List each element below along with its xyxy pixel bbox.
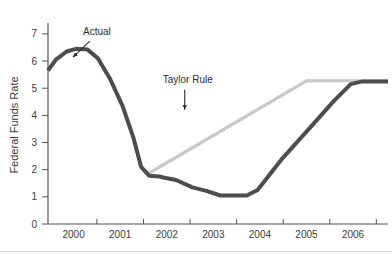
series-group: [48, 49, 388, 196]
y-tick-label: 4: [31, 110, 37, 121]
annotation-arrow-head: [183, 105, 187, 110]
y-tick-label: 3: [31, 137, 37, 148]
bottom-divider: [0, 251, 392, 252]
annotation-label-actual: Actual: [83, 26, 111, 37]
y-tick-label: 6: [31, 56, 37, 67]
y-tick-label: 2: [31, 164, 37, 175]
line-chart: Federal Funds Rate 01234567 200020012002…: [0, 0, 392, 254]
annotation-label-taylor-rule: Taylor Rule: [163, 74, 213, 85]
x-tick-group: 2000200120022003200420052006: [62, 219, 376, 240]
annotation-group: ActualTaylor Rule: [73, 26, 213, 110]
series-line-taylor-rule: [147, 81, 388, 175]
y-tick-label: 7: [31, 28, 37, 39]
series-line-actual: [48, 49, 388, 196]
x-tick-label: 2005: [295, 229, 318, 240]
x-tick-label: 2006: [342, 229, 365, 240]
x-tick-label: 2002: [156, 229, 179, 240]
chart-container: Federal Funds Rate 01234567 200020012002…: [0, 0, 392, 254]
x-tick-label: 2000: [62, 229, 85, 240]
y-tick-label: 5: [31, 83, 37, 94]
y-axis-title: Federal Funds Rate: [8, 76, 20, 173]
y-tick-label: 1: [31, 191, 37, 202]
x-tick-label: 2001: [109, 229, 132, 240]
x-tick-label: 2003: [202, 229, 225, 240]
x-tick-label: 2004: [249, 229, 272, 240]
y-tick-label: 0: [31, 219, 37, 230]
y-tick-group: 01234567: [31, 28, 48, 229]
